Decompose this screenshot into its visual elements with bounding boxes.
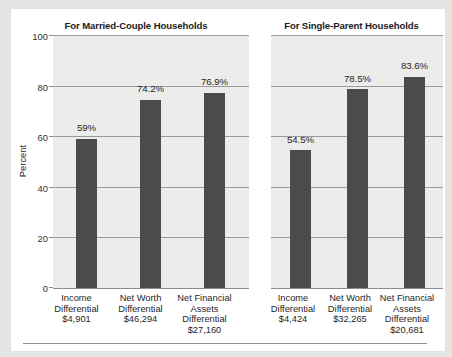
y-axis-title: Percent — [17, 145, 28, 177]
ytick-label-80: 80 — [38, 81, 48, 92]
figure-root: For Married-Couple Households Percent 10… — [0, 0, 452, 357]
bar-value-married-net-worth: 74.2% — [137, 83, 164, 94]
ytick-mark-40 — [49, 187, 53, 188]
ytick-label-20: 20 — [38, 233, 48, 244]
panel-title-married-couple: For Married-Couple Households — [25, 20, 247, 31]
ytick-label-0: 0 — [43, 283, 48, 294]
bar-married-net-financial-assets — [204, 93, 225, 288]
xlabel-line: Net Financial — [351, 293, 452, 304]
plot-area-married-couple: 100 80 60 40 20 — [53, 35, 249, 289]
bar-single-income — [290, 150, 311, 288]
ytick-mark-20 — [49, 237, 53, 238]
xlabel-line: $27,160 — [147, 325, 262, 336]
bar-single-net-worth — [347, 89, 368, 288]
bar-value-single-net-financial-assets: 83.6% — [401, 60, 428, 71]
bar-value-single-income: 54.5% — [287, 134, 314, 145]
panel-married-couple: For Married-Couple Households Percent 10… — [19, 9, 255, 351]
plot-area-single-parent: 54.5% 78.5% 83.6% — [271, 35, 443, 289]
bar-value-married-net-financial-assets: 76.9% — [201, 76, 228, 87]
xlabel-line: Assets — [351, 304, 452, 315]
bar-married-income — [76, 139, 97, 288]
ytick-label-60: 60 — [38, 132, 48, 143]
gridline-100 — [271, 35, 443, 36]
figure-card: For Married-Couple Households Percent 10… — [11, 9, 445, 351]
bar-married-net-worth — [140, 100, 161, 288]
bar-value-single-net-worth: 78.5% — [344, 73, 371, 84]
ytick-mark-0 — [49, 287, 53, 288]
xlabel-line: $20,681 — [351, 325, 452, 336]
ytick-label-100: 100 — [32, 31, 48, 42]
panel-single-parent: For Single-Parent Households 54.5% 78.5%… — [258, 9, 445, 351]
ytick-label-40: 40 — [38, 182, 48, 193]
ytick-mark-60 — [49, 136, 53, 137]
ytick-mark-100 — [49, 35, 53, 36]
gridline-100: 100 — [53, 35, 249, 36]
xlabel-single-net-financial-assets: Net Financial Assets Differential $20,68… — [351, 293, 452, 335]
xlabel-line: Differential — [351, 314, 452, 325]
bar-single-net-financial-assets — [404, 77, 425, 289]
ytick-mark-80 — [49, 86, 53, 87]
bottom-rule — [23, 343, 427, 344]
panel-title-single-parent: For Single-Parent Households — [258, 20, 445, 31]
bar-value-married-income: 59% — [77, 122, 96, 133]
